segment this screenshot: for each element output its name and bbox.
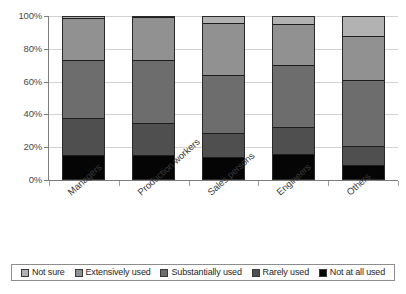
legend-item[interactable]: Rarely used: [252, 268, 309, 277]
bar-sales-persons: [202, 16, 245, 180]
bar-segment-extensively-used: [132, 17, 175, 60]
bar-segment-rarely-used: [342, 146, 385, 166]
bar-segment-rarely-used: [202, 133, 245, 157]
legend-label: Extensively used: [86, 268, 151, 277]
legend-item[interactable]: Not at all used: [319, 268, 385, 277]
bar-others: [342, 16, 385, 180]
bar-segment-substantially-used: [272, 65, 315, 127]
bar-managers: [62, 16, 105, 180]
legend-item[interactable]: Substantially used: [160, 268, 241, 277]
legend-swatch-icon: [160, 269, 168, 277]
legend-swatch-icon: [252, 269, 260, 277]
bar-segment-substantially-used: [202, 75, 245, 133]
legend-label: Not sure: [32, 268, 65, 277]
legend-item[interactable]: Not sure: [21, 268, 65, 277]
bar-segment-rarely-used: [62, 118, 105, 156]
bar-segment-not-sure: [272, 16, 315, 24]
legend-swatch-icon: [75, 269, 83, 277]
bar-segment-extensively-used: [342, 36, 385, 80]
bar-segment-substantially-used: [132, 60, 175, 123]
legend-swatch-icon: [319, 269, 327, 277]
legend-label: Not at all used: [330, 268, 385, 277]
bar-segment-rarely-used: [132, 123, 175, 155]
legend-swatch-icon: [21, 269, 29, 277]
legend-label: Substantially used: [171, 268, 241, 277]
bar-segment-substantially-used: [62, 60, 105, 117]
chart-legend: Not sureExtensively usedSubstantially us…: [11, 264, 395, 281]
bar-segment-not-sure: [202, 16, 245, 23]
bar-segment-extensively-used: [62, 18, 105, 61]
legend-label: Rarely used: [263, 268, 309, 277]
bar-segment-substantially-used: [342, 80, 385, 146]
bar-segment-rarely-used: [272, 127, 315, 154]
x-axis-category-labels: ManagersProduction workersSales personsE…: [0, 182, 406, 250]
bar-segment-not-sure: [342, 16, 385, 36]
bar-production-workers: [132, 16, 175, 180]
plot-area: 0%20%40%60%80%100% ManagersProduction wo…: [0, 0, 406, 250]
bar-segment-extensively-used: [202, 23, 245, 75]
legend-item[interactable]: Extensively used: [75, 268, 151, 277]
bar-segment-extensively-used: [272, 24, 315, 65]
bar-engineers: [272, 16, 315, 180]
stacked-bar-chart: 0%20%40%60%80%100% ManagersProduction wo…: [0, 0, 406, 294]
